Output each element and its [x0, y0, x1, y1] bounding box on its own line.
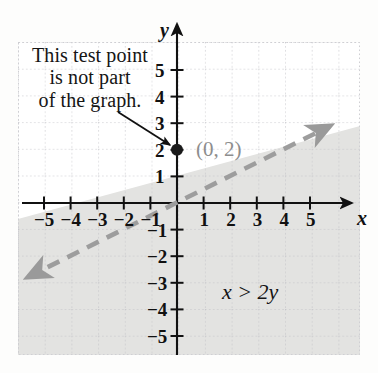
region-inequality-label: x > 2y [222, 281, 278, 303]
y-tick-label: 4 [155, 88, 165, 107]
x-tick-label: 4 [279, 210, 289, 229]
y-tick-label: 3 [155, 114, 165, 133]
callout-line-3: of the graph. [14, 89, 166, 111]
y-tick-label: 2 [155, 141, 165, 160]
y-axis-label: y [160, 20, 169, 40]
y-tick-label: −3 [147, 274, 167, 293]
callout-note: This test point is not part of the graph… [14, 44, 166, 111]
x-tick-label: −5 [34, 210, 54, 229]
y-tick-label: 1 [155, 167, 165, 186]
test-point-label: (0, 2) [196, 139, 242, 160]
x-tick-label: −4 [61, 210, 81, 229]
x-tick-label: −2 [114, 210, 134, 229]
y-tick-label: −4 [147, 300, 167, 319]
test-point-dot [171, 144, 183, 156]
x-tick-label: −3 [87, 210, 107, 229]
callout-line-1: This test point [14, 44, 166, 66]
y-tick-label: −5 [147, 327, 167, 346]
x-axis-label: x [357, 208, 367, 228]
y-tick-label: −2 [147, 247, 167, 266]
y-tick-label: 5 [155, 61, 165, 80]
x-tick-label: 1 [200, 210, 210, 229]
y-tick-label: −1 [147, 221, 167, 240]
x-tick-label: 2 [226, 210, 236, 229]
x-tick-label: 3 [253, 210, 263, 229]
x-tick-label: 5 [306, 210, 316, 229]
callout-line-2: is not part [14, 66, 166, 88]
figure-canvas: This test point is not part of the graph… [0, 0, 378, 373]
